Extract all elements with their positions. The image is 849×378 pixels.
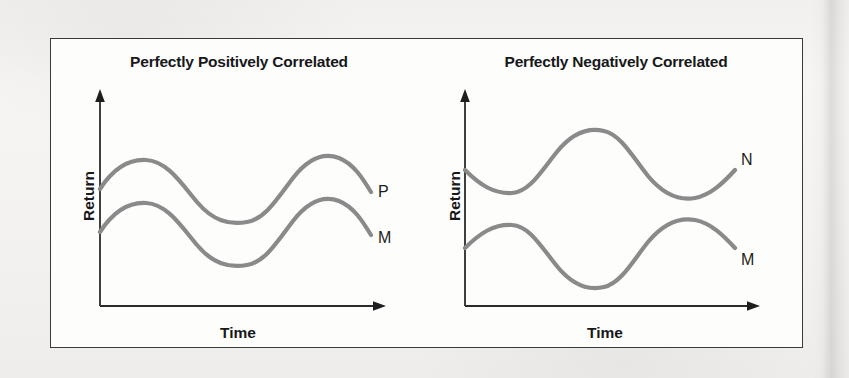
- plot-area-positively-correlated: [51, 39, 427, 349]
- curve-series-m: [100, 199, 371, 266]
- x-axis-arrowhead: [373, 301, 386, 311]
- series-label-n: N: [741, 151, 753, 169]
- scan-shadow-band: [812, 0, 849, 378]
- series-label-m: M: [741, 251, 754, 269]
- curve-series-n: [465, 130, 735, 199]
- figure-page: Perfectly Positively Correlated Return T…: [0, 0, 849, 378]
- series-label-p: P: [378, 183, 389, 201]
- y-axis-arrowhead: [460, 89, 470, 102]
- y-axis-label: Return: [80, 156, 98, 236]
- y-axis-arrowhead: [95, 89, 105, 102]
- curve-series-p: [100, 156, 371, 223]
- x-axis-label: Time: [183, 324, 293, 342]
- curve-series-m: [465, 219, 735, 288]
- plot-area-negatively-correlated: [428, 39, 804, 349]
- x-axis-label: Time: [550, 324, 660, 342]
- x-axis-arrowhead: [747, 301, 760, 311]
- panel-negatively-correlated: Perfectly Negatively Correlated Return T…: [428, 39, 804, 349]
- figure-frame: Perfectly Positively Correlated Return T…: [50, 38, 803, 348]
- y-axis-label: Return: [446, 156, 464, 236]
- panel-positively-correlated: Perfectly Positively Correlated Return T…: [51, 39, 427, 349]
- series-label-m: M: [378, 229, 391, 247]
